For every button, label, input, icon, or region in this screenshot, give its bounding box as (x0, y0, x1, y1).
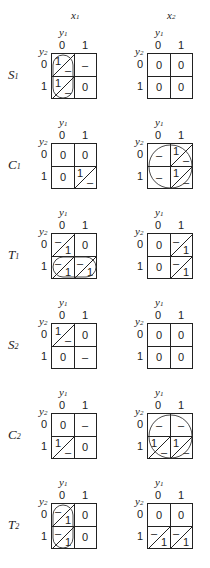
row-0-label: 0 (137, 509, 143, 520)
row-0-label: 0 (41, 239, 47, 250)
col-0-label: 0 (59, 130, 65, 141)
kmap-grid: 0000 (147, 53, 193, 99)
row-label-c2: C2 (8, 427, 21, 443)
row-0-label: 0 (137, 239, 143, 250)
row-0-label: 0 (41, 329, 47, 340)
row-1-label: 1 (41, 261, 47, 272)
kmap-grid: 1–00– (51, 323, 97, 369)
row-0-label: 0 (41, 419, 47, 430)
row-1-label: 1 (41, 81, 47, 92)
col-0-label: 0 (155, 490, 161, 501)
kmap-grid: 0001– (51, 143, 97, 189)
overlay (52, 54, 98, 100)
row-0-label: 0 (137, 419, 143, 430)
overlay (52, 324, 98, 370)
col-1-label: 1 (178, 130, 184, 141)
col-1-label: 1 (82, 490, 88, 501)
col-0-label: 0 (155, 130, 161, 141)
overlay (52, 144, 98, 190)
col-1-label: 1 (82, 400, 88, 411)
col-0-label: 0 (59, 310, 65, 321)
kmap-grid: 00–1–1 (147, 503, 193, 549)
row-label-t1: T1 (8, 247, 19, 263)
row-0-label: 0 (137, 59, 143, 70)
kmap-grid: –1––1– (147, 143, 193, 189)
col-1-label: 1 (178, 490, 184, 501)
col-1-label: 1 (178, 40, 184, 51)
row-1-label: 1 (41, 441, 47, 452)
row-1-label: 1 (137, 81, 143, 92)
overlay (52, 234, 98, 280)
kmap-grid: –10–1–1 (51, 233, 97, 279)
col-1-label: 1 (178, 400, 184, 411)
col-0-label: 0 (155, 400, 161, 411)
col-0-label: 0 (59, 40, 65, 51)
row-1-label: 1 (137, 531, 143, 542)
row-label-s2: S2 (8, 337, 19, 353)
col-0-label: 0 (155, 220, 161, 231)
kmap-grid: 0000 (147, 323, 193, 369)
row-0-label: 0 (41, 509, 47, 520)
overlay (148, 234, 194, 280)
overlay (52, 414, 98, 460)
kmap-grid: 1––1–0 (51, 53, 97, 99)
kmap-grid: 0–1–0 (51, 413, 97, 459)
overlay (148, 414, 194, 460)
col-1-label: 1 (178, 220, 184, 231)
x2-header: x2 (167, 10, 175, 23)
overlay (148, 144, 194, 190)
row-1-label: 1 (41, 531, 47, 542)
col-1-label: 1 (178, 310, 184, 321)
col-0-label: 0 (155, 40, 161, 51)
row-1-label: 1 (137, 171, 143, 182)
kmap-grid: 0–10–1 (147, 233, 193, 279)
row-label-s1: S1 (8, 67, 19, 83)
col-1-label: 1 (82, 130, 88, 141)
row-1-label: 1 (137, 441, 143, 452)
col-1-label: 1 (82, 220, 88, 231)
overlay (148, 54, 194, 100)
row-label-t2: T2 (8, 517, 19, 533)
row-1-label: 1 (137, 351, 143, 362)
row-0-label: 0 (41, 59, 47, 70)
kmap-grid: ––1–1– (147, 413, 193, 459)
overlay (52, 504, 98, 550)
col-0-label: 0 (59, 490, 65, 501)
row-0-label: 0 (137, 329, 143, 340)
col-0-label: 0 (59, 400, 65, 411)
row-0-label: 0 (41, 149, 47, 160)
row-1-label: 1 (41, 351, 47, 362)
x1-header: x1 (71, 10, 79, 23)
row-label-c1: C1 (8, 157, 21, 173)
overlay (148, 324, 194, 370)
col-0-label: 0 (59, 220, 65, 231)
kmap-grid: –10–10 (51, 503, 97, 549)
row-1-label: 1 (137, 261, 143, 272)
col-0-label: 0 (155, 310, 161, 321)
overlay (148, 504, 194, 550)
col-1-label: 1 (82, 310, 88, 321)
col-1-label: 1 (82, 40, 88, 51)
row-1-label: 1 (41, 171, 47, 182)
row-0-label: 0 (137, 149, 143, 160)
